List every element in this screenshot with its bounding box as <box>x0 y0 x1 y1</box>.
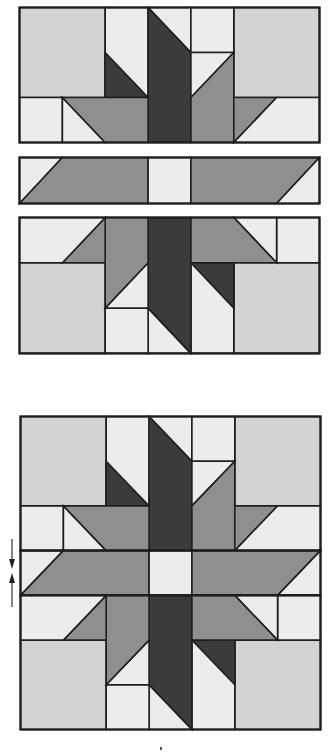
lightest-fabric-piece <box>105 308 148 353</box>
assembled-block <box>19 415 322 731</box>
center-sash-strip <box>18 156 321 205</box>
lightest-fabric-piece <box>148 158 191 204</box>
lightest-fabric-piece <box>191 8 234 53</box>
lightest-fabric-piece <box>106 685 149 730</box>
light-fabric-piece <box>235 417 321 506</box>
lightest-fabric-piece <box>277 218 320 263</box>
light-fabric-piece <box>20 8 106 98</box>
lightest-fabric-piece <box>149 551 192 596</box>
light-fabric-piece <box>234 8 320 98</box>
light-fabric-piece <box>21 640 107 729</box>
seam-press-arrows-icon <box>8 539 18 607</box>
lightest-fabric-piece <box>278 595 321 640</box>
light-fabric-piece <box>20 263 106 354</box>
top-half-unit <box>18 6 321 144</box>
light-fabric-piece <box>21 417 107 506</box>
lightest-fabric-piece <box>20 98 63 143</box>
lightest-fabric-piece <box>192 417 235 462</box>
bottom-mark <box>160 747 162 750</box>
light-fabric-piece <box>234 263 320 354</box>
lightest-fabric-piece <box>21 506 64 551</box>
light-fabric-piece <box>235 640 321 729</box>
bottom-half-unit <box>18 216 321 355</box>
